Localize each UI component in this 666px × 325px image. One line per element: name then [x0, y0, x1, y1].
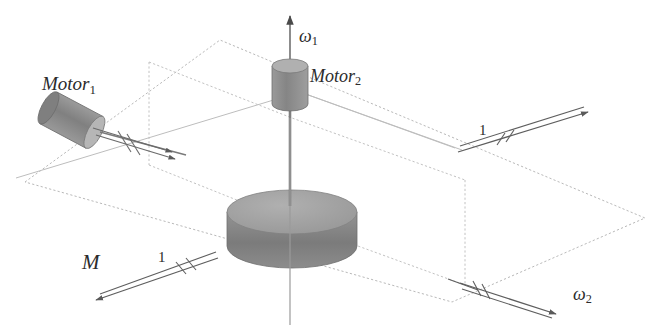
label-moment-M: M: [82, 250, 100, 275]
label-motor-1: Motor1: [42, 73, 96, 98]
flywheel-disk: [227, 190, 357, 268]
label-omega-2: ω2: [573, 284, 592, 307]
motor-1-cylinder: [34, 89, 109, 152]
diagram-svg: [0, 0, 666, 325]
figure-canvas: Motor1 Motor2 ω1 ω2 M 1 1: [0, 0, 666, 325]
bearing-axis-right-vector: [458, 107, 588, 152]
motor-2-cylinder: [272, 59, 308, 111]
moment-vector-M: [96, 252, 218, 300]
omega-2-vector: [448, 279, 556, 318]
label-bearing-left: 1: [158, 249, 166, 266]
label-omega-1: ω1: [299, 26, 318, 49]
label-bearing-right: 1: [479, 122, 487, 139]
label-motor-2: Motor2: [310, 66, 361, 89]
